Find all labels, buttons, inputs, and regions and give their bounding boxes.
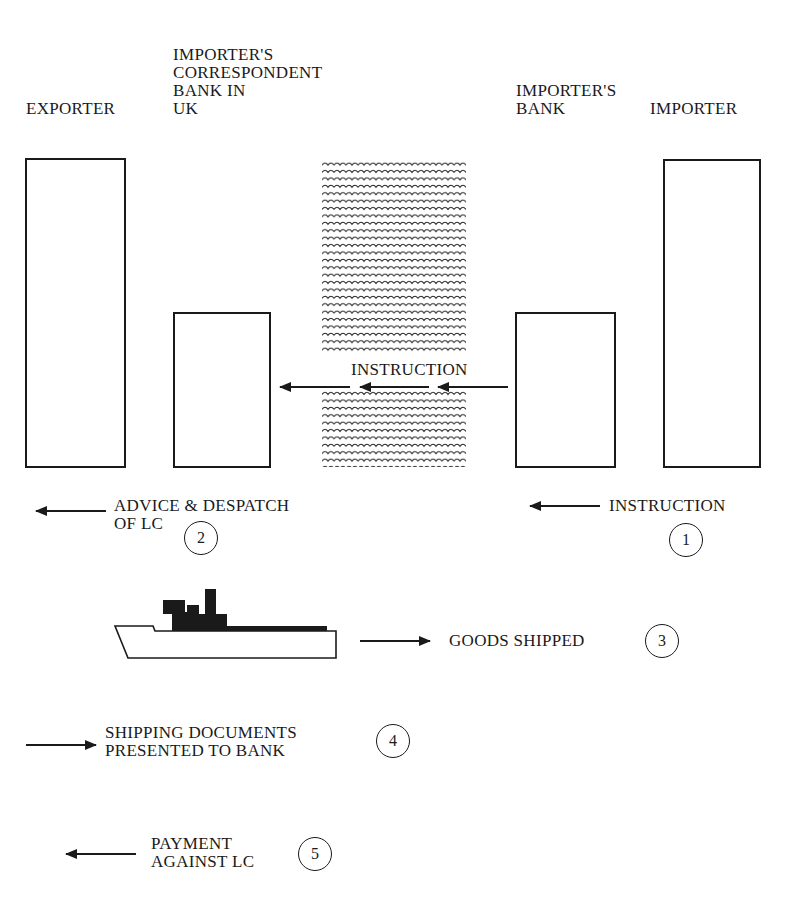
step3-label: GOODS SHIPPED: [449, 632, 585, 650]
step1-number-badge: 1: [669, 523, 703, 557]
waves-icon: [322, 160, 466, 467]
step5-number-badge: 5: [298, 837, 332, 871]
step1-label: INSTRUCTION: [609, 497, 726, 515]
ship-icon: [115, 589, 336, 658]
sea-instruction-label: INSTRUCTION: [349, 361, 470, 379]
step4-number-badge: 4: [376, 724, 410, 758]
step5-label: PAYMENT AGAINST LC: [151, 835, 254, 871]
step3-number-badge: 3: [645, 624, 679, 658]
step4-label: SHIPPING DOCUMENTS PRESENTED TO BANK: [105, 724, 297, 760]
step2-number-badge: 2: [184, 521, 218, 555]
